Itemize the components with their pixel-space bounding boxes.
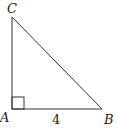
vertex-label-c: C <box>7 1 17 16</box>
vertex-label-b: B <box>103 112 114 127</box>
right-triangle-diagram: C A B 4 <box>0 0 117 130</box>
right-angle-marker <box>12 97 24 109</box>
triangle-abc <box>12 17 102 109</box>
side-label-ab: 4 <box>52 112 60 127</box>
vertex-label-a: A <box>0 110 9 125</box>
